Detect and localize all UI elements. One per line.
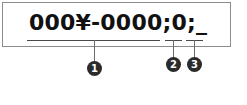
- callout-marker-1: 1: [87, 61, 102, 76]
- format-string-text: 000¥-0000;0;_: [29, 10, 207, 36]
- leader-line-3: [194, 40, 195, 58]
- leader-line-2: [173, 40, 174, 58]
- callout-marker-2: 2: [166, 57, 181, 72]
- format-string-callout-figure: 000¥-0000;0;_ 1 2 3: [0, 0, 247, 105]
- callout-marker-3: 3: [187, 57, 202, 72]
- leader-line-1: [94, 40, 95, 62]
